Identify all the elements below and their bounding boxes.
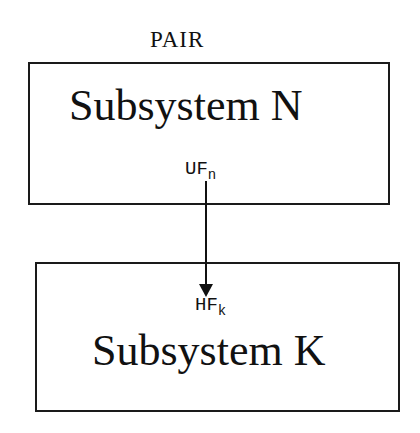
subsystem-k-title: Subsystem K: [92, 325, 325, 376]
pair-label: PAIR: [150, 27, 204, 53]
subsystem-k-box: HFk Subsystem K: [35, 262, 400, 412]
subsystem-n-box: Subsystem N UFn: [28, 62, 390, 205]
uf-port-sub: n: [208, 167, 216, 183]
uf-n-port: UFn: [185, 158, 216, 183]
subsystem-n-title: Subsystem N: [69, 80, 302, 131]
hf-k-port: HFk: [195, 294, 226, 319]
hf-port-base: HF: [195, 294, 218, 316]
uf-port-base: UF: [185, 158, 208, 180]
hf-port-sub: k: [218, 303, 226, 319]
